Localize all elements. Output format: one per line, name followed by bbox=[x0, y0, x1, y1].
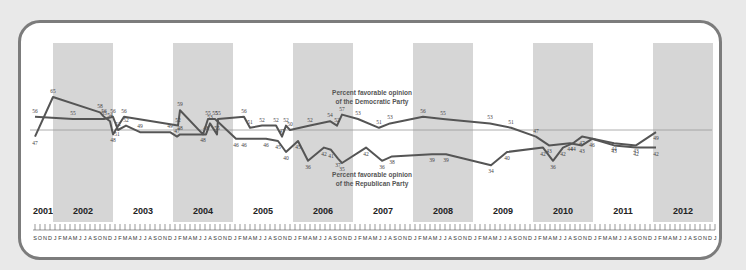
month-tick-label: F bbox=[118, 235, 122, 241]
month-tick-label: M bbox=[663, 235, 668, 241]
data-label: 42 bbox=[363, 151, 369, 157]
year-label-2012: 2012 bbox=[673, 206, 693, 216]
data-label: 47 bbox=[279, 128, 285, 134]
year-label-2008: 2008 bbox=[433, 206, 453, 216]
data-label: 50 bbox=[287, 121, 293, 127]
month-tick-label: N bbox=[103, 235, 107, 241]
month-tick-label: M bbox=[613, 235, 618, 241]
data-label: 55 bbox=[205, 110, 211, 116]
data-label: 54 bbox=[327, 112, 333, 118]
month-tick-label: J bbox=[439, 235, 442, 241]
month-tick-label: S bbox=[33, 235, 37, 241]
month-tick-label: D bbox=[468, 235, 472, 241]
month-tick-label: J bbox=[714, 235, 717, 241]
month-tick-label: A bbox=[668, 235, 672, 241]
month-tick-label: F bbox=[658, 235, 662, 241]
data-label: 36 bbox=[379, 164, 385, 170]
month-tick-label: A bbox=[68, 235, 72, 241]
month-tick-label: J bbox=[444, 235, 447, 241]
data-label: 65 bbox=[50, 88, 56, 94]
month-tick-label: N bbox=[463, 235, 467, 241]
data-label: 47 bbox=[533, 128, 539, 134]
month-tick-label: M bbox=[673, 235, 678, 241]
year-label-2001: 2001 bbox=[33, 206, 53, 216]
month-tick-label: S bbox=[273, 235, 277, 241]
month-tick-label: M bbox=[193, 235, 198, 241]
month-tick-label: N bbox=[523, 235, 527, 241]
data-label: 42 bbox=[321, 151, 327, 157]
month-tick-label: M bbox=[183, 235, 188, 241]
data-label: 40 bbox=[283, 155, 289, 161]
year-band-2008 bbox=[413, 43, 473, 222]
data-label: 51 bbox=[376, 119, 382, 125]
data-label: 46 bbox=[233, 142, 239, 148]
data-label: 47 bbox=[579, 140, 585, 146]
data-label: 54 bbox=[107, 112, 113, 118]
data-label: 46 bbox=[263, 142, 269, 148]
month-tick-label: D bbox=[48, 235, 52, 241]
month-tick-label: F bbox=[358, 235, 362, 241]
month-tick-label: F bbox=[478, 235, 482, 241]
data-label: 53 bbox=[355, 110, 361, 116]
data-label: 56 bbox=[420, 108, 426, 114]
year-label-2010: 2010 bbox=[553, 206, 573, 216]
data-label: 36 bbox=[305, 164, 311, 170]
month-tick-label: F bbox=[298, 235, 302, 241]
republican-annotation: Percent favorable opinion bbox=[332, 171, 412, 179]
data-label: 43 bbox=[579, 148, 585, 154]
data-label: 44 bbox=[570, 146, 576, 152]
month-tick-label: S bbox=[93, 235, 97, 241]
data-label: 55 bbox=[212, 110, 218, 116]
month-tick-label: F bbox=[418, 235, 422, 241]
data-label: 34 bbox=[488, 168, 494, 174]
year-band-2012 bbox=[653, 43, 713, 222]
month-tick-label: J bbox=[204, 235, 207, 241]
month-tick-label: J bbox=[559, 235, 562, 241]
month-tick-label: D bbox=[288, 235, 292, 241]
month-tick-label: A bbox=[308, 235, 312, 241]
month-tick-label: A bbox=[248, 235, 252, 241]
month-tick-label: M bbox=[553, 235, 558, 241]
month-tick-label: J bbox=[139, 235, 142, 241]
month-tick-label: J bbox=[234, 235, 237, 241]
month-tick-label: A bbox=[188, 235, 192, 241]
data-label: 56 bbox=[241, 108, 247, 114]
data-label: 55 bbox=[440, 110, 446, 116]
month-tick-label: M bbox=[303, 235, 308, 241]
month-tick-label: J bbox=[504, 235, 507, 241]
year-label-2003: 2003 bbox=[133, 206, 153, 216]
month-tick-label: M bbox=[133, 235, 138, 241]
data-label: 56 bbox=[32, 108, 38, 114]
month-tick-label: D bbox=[348, 235, 352, 241]
month-tick-label: N bbox=[643, 235, 647, 241]
month-tick-label: F bbox=[238, 235, 242, 241]
month-tick-label: M bbox=[423, 235, 428, 241]
data-label: 55 bbox=[214, 125, 220, 131]
year-label-2002: 2002 bbox=[73, 206, 93, 216]
data-label: 51 bbox=[114, 131, 120, 137]
data-label: 44 bbox=[611, 146, 617, 152]
month-tick-label: A bbox=[688, 235, 692, 241]
year-band-2002 bbox=[53, 43, 113, 222]
month-tick-label: A bbox=[508, 235, 512, 241]
year-label-2006: 2006 bbox=[313, 206, 333, 216]
month-tick-label: A bbox=[128, 235, 132, 241]
month-tick-label: J bbox=[679, 235, 682, 241]
month-tick-label: S bbox=[393, 235, 397, 241]
year-band-2010 bbox=[533, 43, 593, 222]
month-tick-label: F bbox=[58, 235, 62, 241]
month-tick-label: N bbox=[403, 235, 407, 241]
month-tick-label: M bbox=[433, 235, 438, 241]
month-tick-label: J bbox=[619, 235, 622, 241]
month-tick-label: J bbox=[54, 235, 57, 241]
month-tick-label: A bbox=[88, 235, 92, 241]
month-tick-label: S bbox=[693, 235, 697, 241]
month-tick-label: M bbox=[63, 235, 68, 241]
data-label: 36 bbox=[550, 164, 556, 170]
democratic-annotation: Percent favorable opinion bbox=[332, 89, 412, 97]
republican-annotation: of the Republican Party bbox=[336, 180, 409, 188]
month-tick-label: J bbox=[684, 235, 687, 241]
year-label-2004: 2004 bbox=[193, 206, 213, 216]
month-tick-label: M bbox=[603, 235, 608, 241]
month-tick-label: J bbox=[414, 235, 417, 241]
